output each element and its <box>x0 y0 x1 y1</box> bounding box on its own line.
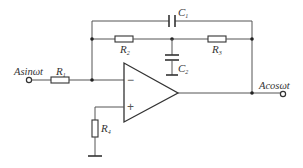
r2-label: R2 <box>119 43 130 56</box>
node-dot <box>250 37 254 41</box>
opamp-minus: − <box>127 73 134 87</box>
opamp-plus: + <box>127 100 134 114</box>
r2-resistor <box>115 36 133 42</box>
node-dot <box>250 91 254 95</box>
r2-r3-branch: R2 R3 <box>90 21 254 93</box>
output-branch: Acosωt <box>178 80 291 97</box>
input-branch: Asinωt R1 <box>13 65 124 83</box>
r4-resistor <box>92 120 98 137</box>
node-dot <box>90 78 94 82</box>
c2-branch: C2 <box>165 39 188 75</box>
output-terminal <box>280 91 285 96</box>
r1-label: R1 <box>55 65 66 78</box>
c1-branch: C1 <box>92 6 252 27</box>
output-signal-label: Acosωt <box>258 80 291 91</box>
r3-resistor <box>208 36 226 42</box>
c1-label: C1 <box>178 6 188 19</box>
node-dot <box>90 37 94 41</box>
input-signal-label: Asinωt <box>13 66 44 77</box>
r1-resistor <box>51 77 69 83</box>
r4-branch: R4 <box>88 107 124 156</box>
opamp: − + <box>124 63 178 122</box>
circuit-diagram: C1 R2 R3 C2 Asinωt R1 − + <box>0 0 303 168</box>
c2-label: C2 <box>178 62 188 75</box>
input-terminal <box>26 77 31 82</box>
r3-label: R3 <box>211 43 222 56</box>
r4-label: R4 <box>100 122 111 135</box>
